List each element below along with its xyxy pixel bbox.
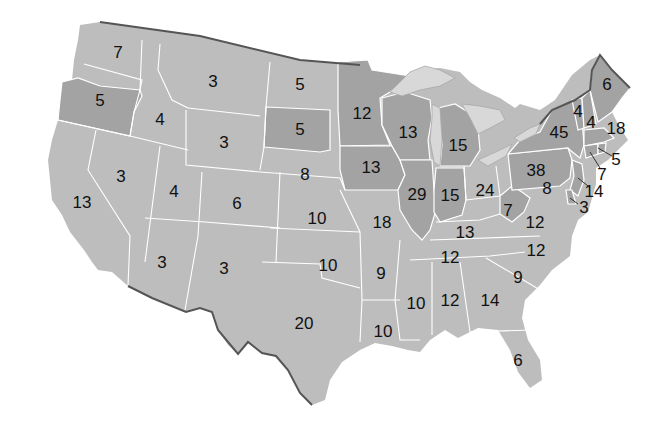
label-fl: 6 [513,352,522,369]
label-ca: 13 [73,194,92,211]
label-ia: 13 [362,159,381,176]
label-ok: 10 [319,257,338,274]
label-in: 15 [441,187,460,204]
label-nv: 3 [116,168,125,185]
label-wa: 7 [113,44,122,61]
label-vt: 4 [573,103,582,120]
label-ny: 45 [550,124,569,141]
label-sd: 5 [295,121,304,138]
label-id: 4 [155,111,164,128]
label-sc: 9 [513,269,522,286]
label-nm: 3 [219,260,228,277]
label-ar: 9 [376,265,385,282]
label-md: 8 [542,180,551,197]
label-mt: 3 [208,73,217,90]
label-az: 3 [157,254,166,271]
label-oh: 24 [476,182,495,199]
label-al: 12 [441,292,460,309]
label-ga: 14 [481,292,500,309]
label-mn: 12 [353,105,372,122]
label-ct: 7 [597,166,606,183]
label-la: 10 [374,323,393,340]
label-ne: 8 [300,166,309,183]
label-nd: 5 [295,76,304,93]
label-ks: 10 [308,210,327,227]
label-mo: 18 [373,214,392,231]
label-mi: 15 [449,137,468,154]
label-ms: 10 [407,295,426,312]
label-nh: 4 [586,114,595,131]
label-ma: 18 [607,120,626,137]
us-map [0,0,661,432]
label-ky: 13 [456,224,475,241]
label-tn: 12 [441,249,460,266]
label-de: 3 [579,199,588,216]
label-ri: 5 [611,151,620,168]
label-or: 5 [95,92,104,109]
label-wv: 7 [503,202,512,219]
label-ut: 4 [169,183,178,200]
label-tx: 20 [295,315,314,332]
label-wi: 13 [399,124,418,141]
label-il: 29 [408,186,427,203]
label-wy: 3 [219,134,228,151]
label-va: 12 [526,214,545,231]
label-pa: 38 [527,162,546,179]
label-nc: 12 [527,242,546,259]
label-me: 6 [602,76,611,93]
label-co: 6 [232,195,241,212]
